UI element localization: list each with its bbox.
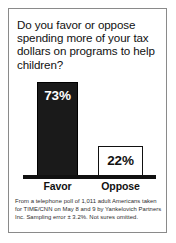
bar-chart-plot-area: 73% 22% (9, 73, 166, 177)
footnote-line-2: for TIME/CNN on May 8 and 9 by Yankelovi… (15, 205, 162, 213)
poll-infographic: Do you favor or oppose spending more of … (8, 8, 167, 233)
bar-oppose: 22% (98, 146, 143, 177)
poll-question-headline: Do you favor or oppose spending more of … (17, 18, 161, 71)
source-footnote: From a telephone poll of 1,011 adult Ame… (15, 197, 162, 222)
category-label-oppose: Oppose (92, 180, 149, 192)
bar-favor-value-label: 73% (38, 88, 77, 103)
footnote-line-1: From a telephone poll of 1,011 adult Ame… (15, 197, 162, 205)
bar-oppose-value-label: 22% (99, 153, 142, 168)
category-label-favor: Favor (29, 180, 86, 192)
bar-favor: 73% (37, 82, 78, 177)
footnote-line-3: Inc. Sampling error ± 3.2%. Not sures om… (15, 213, 162, 221)
category-axis-labels: Favor Oppose (9, 180, 166, 194)
chart-baseline-axis (23, 175, 156, 179)
